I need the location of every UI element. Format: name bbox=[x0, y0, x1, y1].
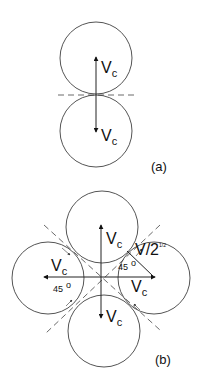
panel-a: Vc Vc (a) bbox=[58, 22, 167, 174]
right-velocity-label: Vc bbox=[131, 278, 148, 298]
bottom-circle bbox=[68, 295, 140, 367]
two-panel-collision-diagram: Vc Vc (a) Vc Vc Vc Vc V/21/2 45o 45o (b) bbox=[0, 0, 200, 378]
top-velocity-label: Vc bbox=[106, 230, 123, 250]
panel-a-label: (a) bbox=[151, 159, 167, 174]
top-circle bbox=[66, 191, 138, 263]
panel-b: Vc Vc Vc Vc V/21/2 45o 45o (b) bbox=[12, 191, 190, 367]
left-circle bbox=[12, 242, 84, 314]
diagonal-velocity-label: V/21/2 bbox=[135, 241, 166, 258]
top-velocity-label: Vc bbox=[101, 59, 118, 79]
bottom-velocity-label: Vc bbox=[101, 127, 118, 147]
bottom-velocity-label: Vc bbox=[106, 308, 123, 328]
angle-right-label: 45o bbox=[118, 258, 136, 272]
left-velocity-label: Vc bbox=[51, 257, 68, 277]
panel-b-label: (b) bbox=[155, 352, 171, 367]
angle-left-label: 45o bbox=[53, 280, 71, 294]
